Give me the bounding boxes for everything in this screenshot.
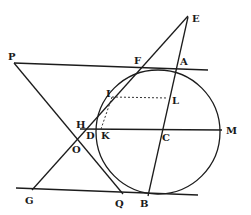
dotted-IL	[112, 97, 168, 98]
label-M: M	[226, 125, 237, 136]
label-D: D	[86, 130, 95, 141]
label-E: E	[192, 13, 200, 24]
label-F: F	[134, 55, 141, 66]
line-PQ	[14, 63, 123, 194]
label-C: C	[162, 132, 170, 143]
label-Q: Q	[115, 198, 124, 209]
circle	[96, 70, 220, 194]
label-A: A	[179, 56, 188, 67]
label-O: O	[72, 144, 81, 155]
dotted-IK	[101, 97, 112, 129]
label-H: H	[76, 119, 85, 130]
label-G: G	[25, 195, 34, 206]
label-I: I	[106, 88, 111, 99]
label-P: P	[8, 51, 16, 62]
geometry-diagram: P E F A I L H D K C M O G Q B	[0, 0, 251, 215]
line-GE	[32, 16, 188, 190]
line-EB	[148, 17, 188, 196]
line-GB	[16, 188, 198, 195]
line-PA	[14, 63, 208, 70]
label-B: B	[140, 198, 148, 209]
label-L: L	[172, 95, 179, 106]
label-K: K	[101, 130, 110, 141]
